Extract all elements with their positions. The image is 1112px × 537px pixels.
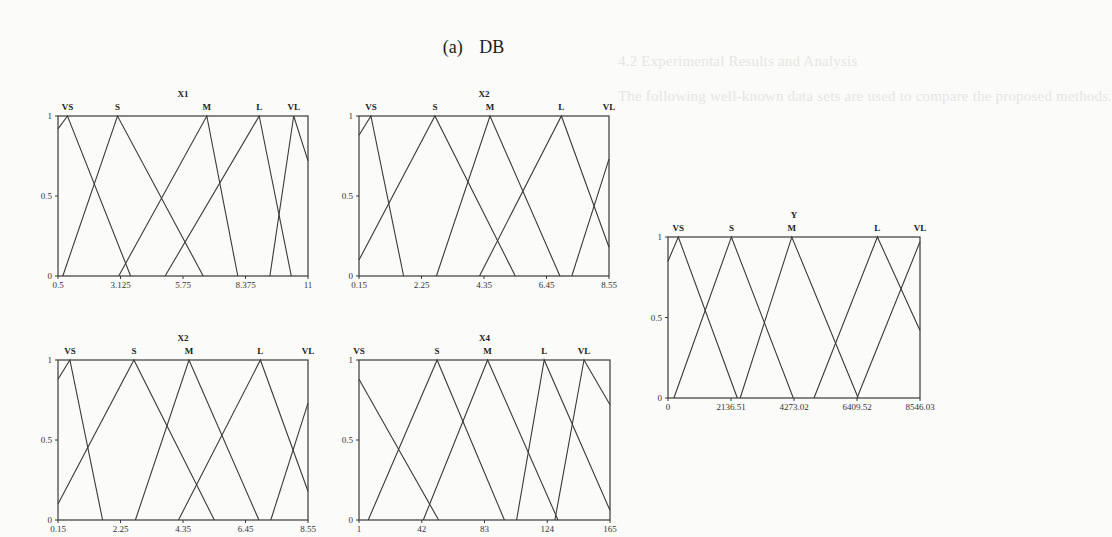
svg-text:8.55: 8.55 xyxy=(601,280,617,290)
svg-text:M: M xyxy=(483,346,492,356)
svg-text:L: L xyxy=(256,102,262,112)
svg-text:S: S xyxy=(435,346,440,356)
svg-text:M: M xyxy=(203,102,212,112)
svg-text:VS: VS xyxy=(353,346,365,356)
mf-m xyxy=(740,237,858,398)
mf-s xyxy=(63,116,203,276)
chart-x2-top: 00.510.152.254.356.458.55VSSMLVLX2 xyxy=(359,116,609,276)
svg-text:2.25: 2.25 xyxy=(414,280,430,290)
svg-text:11: 11 xyxy=(304,280,313,290)
svg-text:8.375: 8.375 xyxy=(235,280,256,290)
chart-x2-bottom: 00.510.152.254.356.458.55VSSMLVLX2 xyxy=(58,360,308,520)
svg-text:M: M xyxy=(185,346,194,356)
chart-x1: 00.510.53.1255.758.37511VSSMLVLX1 xyxy=(58,116,308,276)
svg-text:VS: VS xyxy=(62,102,74,112)
svg-text:L: L xyxy=(558,102,564,112)
svg-text:1: 1 xyxy=(658,232,663,242)
mf-l xyxy=(480,116,610,276)
mf-vs xyxy=(58,360,103,520)
svg-text:6.45: 6.45 xyxy=(238,524,254,534)
svg-text:1: 1 xyxy=(349,355,354,365)
svg-text:6.45: 6.45 xyxy=(539,280,555,290)
svg-text:X2: X2 xyxy=(178,333,189,343)
svg-text:2.25: 2.25 xyxy=(113,524,129,534)
figure-title: (a) DB xyxy=(0,37,947,58)
svg-text:1: 1 xyxy=(357,524,362,534)
svg-text:0.5: 0.5 xyxy=(41,435,53,445)
svg-text:165: 165 xyxy=(603,524,617,534)
mf-m xyxy=(119,116,238,276)
svg-text:1: 1 xyxy=(48,111,53,121)
svg-text:8546.03: 8546.03 xyxy=(905,402,935,412)
mf-m xyxy=(423,360,558,520)
mf-l xyxy=(517,360,610,520)
svg-text:0: 0 xyxy=(658,393,663,403)
svg-text:0.5: 0.5 xyxy=(52,280,64,290)
svg-text:S: S xyxy=(432,102,437,112)
svg-text:VL: VL xyxy=(578,346,591,356)
svg-text:VS: VS xyxy=(64,346,76,356)
mf-m xyxy=(436,116,560,276)
svg-text:M: M xyxy=(788,223,797,233)
svg-text:Y: Y xyxy=(791,210,798,220)
svg-text:VL: VL xyxy=(302,346,315,356)
svg-text:4.35: 4.35 xyxy=(476,280,492,290)
bleed-text-2: The following well-known data sets are u… xyxy=(618,88,1112,105)
mf-s xyxy=(368,360,504,520)
svg-text:L: L xyxy=(541,346,547,356)
svg-text:X4: X4 xyxy=(479,333,490,343)
svg-text:VS: VS xyxy=(673,223,685,233)
svg-text:L: L xyxy=(257,346,263,356)
svg-text:S: S xyxy=(729,223,734,233)
svg-text:0.5: 0.5 xyxy=(41,191,53,201)
figure-dataset: DB xyxy=(479,37,504,57)
mf-m xyxy=(135,360,259,520)
svg-text:42: 42 xyxy=(417,524,426,534)
mf-l xyxy=(165,116,291,276)
svg-text:6409.52: 6409.52 xyxy=(842,402,871,412)
svg-text:5.75: 5.75 xyxy=(175,280,191,290)
svg-text:0.15: 0.15 xyxy=(50,524,66,534)
svg-text:VS: VS xyxy=(365,102,377,112)
mf-vl xyxy=(271,403,308,520)
chart-y: 00.5102136.514273.026409.528546.03VSSMLV… xyxy=(668,237,920,398)
mf-vl xyxy=(572,159,609,276)
svg-text:VL: VL xyxy=(603,102,616,112)
svg-text:4.35: 4.35 xyxy=(175,524,191,534)
svg-text:83: 83 xyxy=(480,524,490,534)
mf-l xyxy=(179,360,309,520)
svg-text:0.5: 0.5 xyxy=(342,191,354,201)
mf-s xyxy=(674,237,793,398)
svg-text:8.55: 8.55 xyxy=(300,524,316,534)
figure-label: (a) xyxy=(443,37,463,57)
mf-vl xyxy=(555,360,610,520)
svg-text:S: S xyxy=(115,102,120,112)
svg-text:3.125: 3.125 xyxy=(110,280,131,290)
chart-x4: 00.5114283124165VSSMLVLX4 xyxy=(359,360,610,520)
svg-text:2136.51: 2136.51 xyxy=(716,402,745,412)
svg-text:VL: VL xyxy=(287,102,300,112)
svg-text:0.5: 0.5 xyxy=(651,313,663,323)
svg-text:1: 1 xyxy=(48,355,53,365)
mf-vs xyxy=(58,116,131,276)
svg-text:124: 124 xyxy=(541,524,555,534)
svg-text:1: 1 xyxy=(349,111,354,121)
mf-vs xyxy=(359,116,404,276)
svg-text:4273.02: 4273.02 xyxy=(779,402,808,412)
svg-text:0.5: 0.5 xyxy=(342,435,354,445)
svg-text:X2: X2 xyxy=(479,89,490,99)
svg-text:VL: VL xyxy=(914,223,927,233)
svg-text:M: M xyxy=(486,102,495,112)
svg-text:S: S xyxy=(131,346,136,356)
svg-text:0: 0 xyxy=(666,402,671,412)
svg-text:0: 0 xyxy=(349,515,354,525)
svg-text:L: L xyxy=(874,223,880,233)
svg-text:X1: X1 xyxy=(178,89,189,99)
svg-text:0.15: 0.15 xyxy=(351,280,367,290)
